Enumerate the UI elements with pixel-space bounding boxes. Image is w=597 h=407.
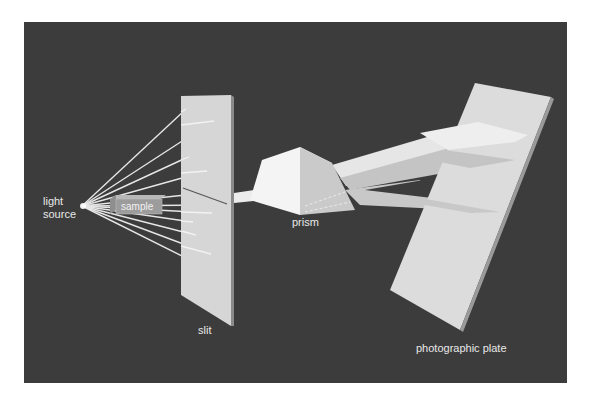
- spectroscope-diagram: sample light source slit prism photograp…: [0, 0, 597, 407]
- prism-label: prism: [292, 216, 319, 228]
- slit: [181, 95, 234, 326]
- slit-edge: [231, 95, 234, 326]
- light-source-icon: [80, 203, 86, 209]
- sample: sample: [110, 195, 166, 214]
- sample-label: sample: [121, 201, 154, 212]
- light-source-label-line2: source: [43, 208, 76, 220]
- sample-top: [110, 195, 166, 199]
- slit-face: [181, 95, 231, 326]
- slit-label: slit: [198, 324, 211, 336]
- photographic-plate-label: photographic plate: [416, 342, 507, 354]
- light-source-label-line1: light: [43, 195, 63, 207]
